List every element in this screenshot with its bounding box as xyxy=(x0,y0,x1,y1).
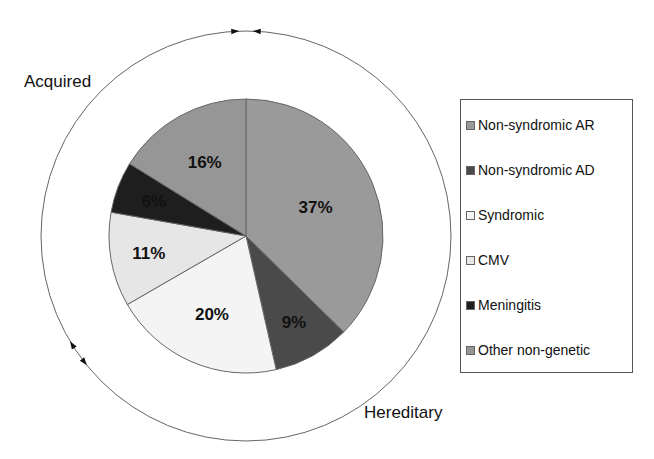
legend-swatch xyxy=(466,121,475,130)
percent-label: 37% xyxy=(298,198,332,217)
hereditary-label: Hereditary xyxy=(364,403,443,422)
percent-label: 11% xyxy=(132,244,165,263)
percent-label: 20% xyxy=(195,305,229,324)
legend-item-meningitis: Meningitis xyxy=(466,297,541,313)
legend-label: Other non-genetic xyxy=(478,342,590,358)
legend-label: Non-syndromic AD xyxy=(478,162,595,178)
legend-swatch xyxy=(466,346,475,355)
legend-label: CMV xyxy=(478,252,509,268)
legend-item-nonsyndromic-ad: Non-syndromic AD xyxy=(466,162,595,178)
acquired-label: Acquired xyxy=(24,72,91,91)
arrowhead-icon xyxy=(80,357,87,365)
percent-label: 6% xyxy=(142,192,167,211)
legend-item-cmv: CMV xyxy=(466,252,509,268)
legend-label: Meningitis xyxy=(478,297,541,313)
arrowhead-icon xyxy=(231,29,239,35)
percent-label: 16% xyxy=(188,153,222,172)
legend-swatch xyxy=(466,166,475,175)
pie-slices xyxy=(109,99,383,373)
legend-swatch xyxy=(466,256,475,265)
legend-item-syndromic: Syndromic xyxy=(466,207,544,223)
percent-label: 9% xyxy=(282,313,307,332)
legend: Non-syndromic AR Non-syndromic AD Syndro… xyxy=(460,99,633,373)
arrowhead-icon xyxy=(70,341,77,349)
legend-item-other-non-genetic: Other non-genetic xyxy=(466,342,590,358)
legend-label: Non-syndromic AR xyxy=(478,117,595,133)
arrowhead-icon xyxy=(253,29,261,35)
legend-label: Syndromic xyxy=(478,207,544,223)
legend-swatch xyxy=(466,301,475,310)
legend-item-nonsyndromic-ar: Non-syndromic AR xyxy=(466,117,595,133)
legend-swatch xyxy=(466,211,475,220)
